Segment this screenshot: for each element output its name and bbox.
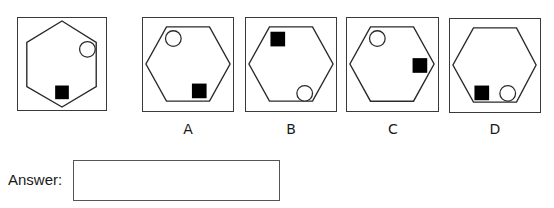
answer-input[interactable] — [73, 160, 280, 201]
square-shape — [413, 58, 428, 73]
option-c-figure[interactable] — [346, 17, 439, 112]
hexagon-shape — [249, 27, 333, 101]
circle-shape — [80, 42, 96, 58]
square-shape — [270, 32, 285, 47]
option-b-label: B — [281, 121, 301, 137]
option-a-drawing — [143, 18, 233, 111]
option-d-figure[interactable] — [449, 18, 541, 113]
circle-shape — [370, 31, 386, 47]
square-shape — [192, 84, 207, 99]
option-c-label: C — [383, 121, 403, 137]
option-b-drawing — [246, 18, 336, 111]
answer-label: Answer: — [8, 171, 62, 188]
option-c-drawing — [347, 18, 438, 111]
square-shape — [474, 86, 489, 101]
hexagon-shape — [146, 27, 230, 101]
square-shape — [55, 86, 69, 100]
circle-shape — [166, 31, 182, 47]
option-a-label: A — [178, 121, 198, 137]
hexagon-shape — [453, 28, 536, 102]
circle-shape — [297, 86, 313, 102]
question-figure — [17, 17, 107, 111]
option-b-figure[interactable] — [245, 17, 337, 112]
question-figure-drawing — [18, 18, 106, 110]
option-d-label: D — [485, 121, 505, 137]
option-d-drawing — [450, 19, 540, 112]
circle-shape — [500, 86, 516, 102]
option-a-figure[interactable] — [142, 17, 234, 112]
